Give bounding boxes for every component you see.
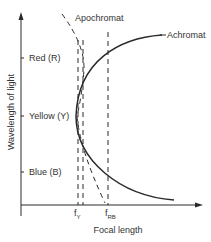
focal-length-diagram: Red (R) Yellow (Y) Blue (B) Wavelength o… (0, 0, 211, 242)
x-tick-label-frb: fRB (105, 208, 116, 220)
x-axis-label: Focal length (93, 225, 142, 235)
x-axis (21, 203, 203, 208)
diagram-canvas: Red (R) Yellow (Y) Blue (B) Wavelength o… (0, 0, 211, 242)
x-axis-arrow-icon (195, 203, 203, 208)
apochromat-label: Apochromat (75, 13, 124, 23)
y-tick-label-red: Red (R) (29, 53, 61, 63)
fy-subscript: Y (77, 214, 81, 220)
y-tick-label-yellow: Yellow (Y) (29, 111, 69, 121)
y-axis-arrow-icon (19, 12, 24, 20)
reference-lines (78, 32, 108, 205)
achromat-curve (76, 35, 174, 200)
y-tick-label-blue: Blue (B) (29, 167, 62, 177)
achromat-label: Achromat (167, 30, 206, 40)
x-tick-label-fy: fY (74, 208, 81, 220)
frb-subscript: RB (108, 214, 116, 220)
y-axis-label: Wavelength of light (6, 73, 16, 150)
y-axis (19, 12, 25, 216)
